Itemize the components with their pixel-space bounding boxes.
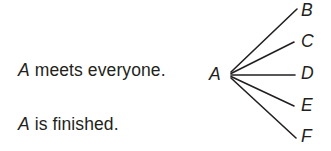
fan-diagram: A B C D E F (200, 0, 331, 151)
edge-a-to-e (231, 77, 294, 107)
edge-a-to-c (231, 42, 294, 74)
node-label-a: A (209, 66, 221, 84)
sentence-line-2: A is finished. (18, 116, 119, 134)
sentence-text-2: is finished. (30, 114, 119, 134)
figure-canvas: A meets everyone. A is finished. A B C D… (0, 0, 331, 151)
node-label-b: B (301, 2, 313, 20)
sentence-text-1: meets everyone. (30, 60, 166, 80)
variable-a-sentence-2: A (18, 114, 30, 134)
node-label-e: E (301, 97, 313, 115)
variable-a-sentence-1: A (18, 60, 30, 80)
node-label-d: D (301, 65, 314, 83)
node-label-f: F (301, 128, 312, 146)
edge-a-to-f (231, 78, 296, 138)
edge-a-to-b (231, 9, 297, 72)
sentence-line-1: A meets everyone. (18, 62, 166, 80)
node-label-c: C (301, 33, 314, 51)
